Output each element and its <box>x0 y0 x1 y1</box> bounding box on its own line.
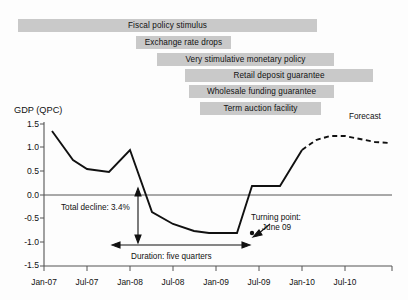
duration-arrow <box>112 242 250 248</box>
turning-point-marker <box>250 231 254 235</box>
total-decline-arrow <box>135 188 141 243</box>
turning-point-arrow <box>253 224 270 237</box>
x-axis-ticks <box>44 266 392 271</box>
gdp-line-forecast-dashed <box>302 136 390 150</box>
chart-figure: Fiscal policy stimulus Exchange rate dro… <box>0 0 408 300</box>
y-axis-ticks <box>40 124 44 266</box>
gdp-line-solid <box>52 131 302 233</box>
plot-canvas <box>0 0 408 300</box>
